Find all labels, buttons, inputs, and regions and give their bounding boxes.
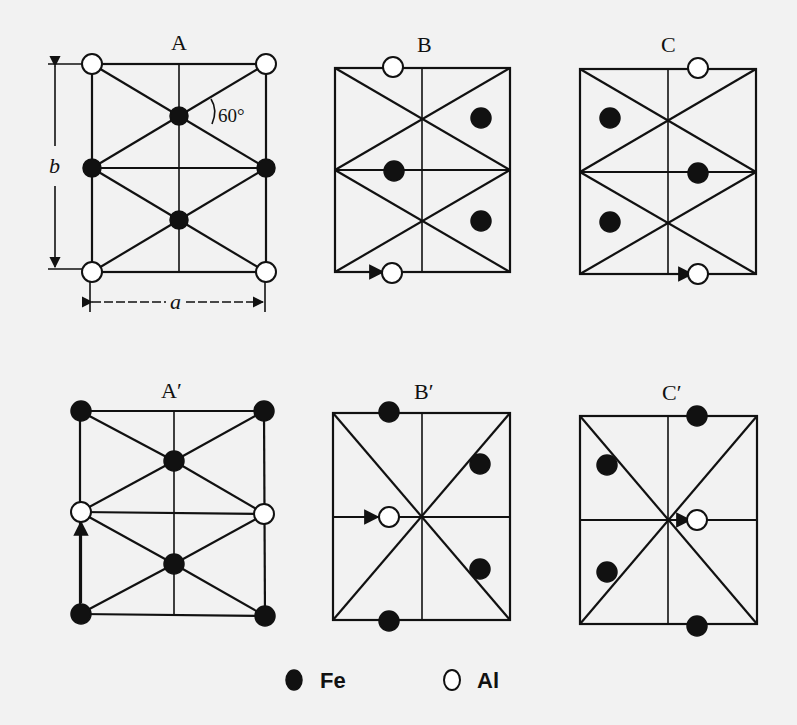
fe-atom <box>379 611 399 631</box>
al-legend-icon <box>444 670 460 690</box>
panel-a: A 60° b a <box>48 30 276 314</box>
panel-label-b: B <box>417 32 432 57</box>
panel-c-prime: C′ <box>580 380 757 636</box>
fe-atom <box>471 108 491 128</box>
panel-label-b-prime: B′ <box>414 379 434 404</box>
fe-atom <box>170 107 188 125</box>
fe-atom <box>470 454 490 474</box>
al-atom <box>82 262 102 282</box>
fe-atom <box>597 562 617 582</box>
fe-atom <box>470 559 490 579</box>
legend-al-label: Al <box>477 668 499 693</box>
fe-atom <box>83 159 101 177</box>
panel-label-c-prime: C′ <box>662 380 682 405</box>
fe-atom <box>597 455 617 475</box>
crystal-structure-diagram: A 60° b a B <box>0 0 797 725</box>
fe-atom <box>164 451 184 471</box>
panel-c: C <box>580 32 756 284</box>
al-atom <box>82 54 102 74</box>
fe-atom <box>688 163 708 183</box>
al-atom <box>382 263 402 283</box>
fe-atom <box>164 554 184 574</box>
legend: Fe Al <box>286 668 499 693</box>
al-atom <box>383 57 403 77</box>
fe-atom <box>379 402 399 422</box>
fe-atom <box>71 604 91 624</box>
fe-atom <box>257 159 275 177</box>
fe-atom <box>471 211 491 231</box>
angle-label: 60° <box>218 105 245 126</box>
fe-atom <box>384 161 404 181</box>
fe-atom <box>600 108 620 128</box>
fe-atom <box>687 406 707 426</box>
al-atom <box>688 264 708 284</box>
dimension-b-label: b <box>49 153 60 178</box>
fe-atom <box>71 401 91 421</box>
fe-atom <box>255 606 275 626</box>
fe-atom <box>170 211 188 229</box>
al-atom <box>687 510 707 530</box>
fe-atom <box>687 616 707 636</box>
al-atom <box>688 58 708 78</box>
al-atom <box>71 502 91 522</box>
panel-label-a-prime: A′ <box>161 378 182 403</box>
panel-b: B <box>335 32 510 283</box>
al-atom <box>256 54 276 74</box>
al-atom <box>379 507 399 527</box>
fe-atom <box>254 401 274 421</box>
panel-label-c: C <box>661 32 676 57</box>
panel-label-a: A <box>171 30 187 55</box>
al-atom <box>254 504 274 524</box>
al-atom <box>256 262 276 282</box>
panel-b-prime: B′ <box>333 379 510 631</box>
fe-atom <box>600 212 620 232</box>
fe-legend-icon <box>286 670 302 690</box>
dimension-a-label: a <box>170 289 181 314</box>
panel-a-prime: A′ <box>71 378 275 626</box>
legend-fe-label: Fe <box>320 668 346 693</box>
